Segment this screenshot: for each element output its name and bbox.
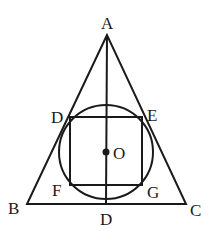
label-d-top: D — [51, 108, 63, 127]
label-e: E — [147, 106, 157, 125]
label-o: O — [113, 144, 125, 163]
geometry-diagram: ) A B C D E F G D O — [0, 0, 215, 231]
label-g: G — [147, 183, 159, 202]
center-point-o — [103, 149, 110, 156]
label-a: A — [101, 14, 114, 33]
label-b: B — [8, 199, 19, 218]
label-f: F — [52, 181, 61, 200]
label-d-bottom: D — [100, 210, 112, 229]
altitude-ad — [106, 35, 107, 204]
label-c: C — [190, 201, 201, 220]
